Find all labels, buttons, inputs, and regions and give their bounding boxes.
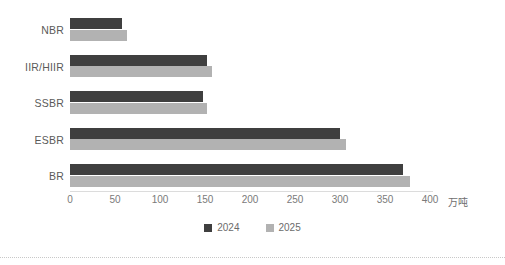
- chart-row: ESBR: [0, 122, 505, 159]
- bar-group: [70, 164, 430, 188]
- category-label: ESBR: [0, 134, 64, 146]
- legend-swatch-icon: [266, 224, 274, 232]
- chart-legend: 2024 2025: [0, 222, 505, 233]
- chart-row: SSBR: [0, 85, 505, 122]
- bar-2024[interactable]: [70, 55, 207, 66]
- bar-2025[interactable]: [70, 66, 212, 77]
- bar-2025[interactable]: [70, 176, 410, 187]
- bar-group: [70, 91, 430, 115]
- bar-group: [70, 128, 430, 152]
- x-tick: 300: [332, 194, 349, 205]
- bottom-divider: [0, 257, 505, 259]
- x-tick: 250: [287, 194, 304, 205]
- plot-area: NBR IIR/HIIR SSBR: [0, 0, 505, 196]
- bar-2024[interactable]: [70, 164, 403, 175]
- bar-2024[interactable]: [70, 91, 203, 102]
- bar-2024[interactable]: [70, 18, 122, 29]
- chart-row: NBR: [0, 12, 505, 49]
- category-label: NBR: [0, 24, 64, 36]
- x-tick: 350: [377, 194, 394, 205]
- bar-2024[interactable]: [70, 128, 340, 139]
- bar-2025[interactable]: [70, 103, 207, 114]
- x-tick: 0: [67, 194, 73, 205]
- x-axis-unit-label: 万吨: [448, 194, 468, 209]
- x-tick: 200: [242, 194, 259, 205]
- bar-2025[interactable]: [70, 139, 346, 150]
- legend-item-2025[interactable]: 2025: [266, 222, 301, 233]
- category-label: BR: [0, 170, 64, 182]
- legend-item-2024[interactable]: 2024: [204, 222, 239, 233]
- category-label: SSBR: [0, 97, 64, 109]
- chart-row: BR: [0, 158, 505, 195]
- bar-rows: NBR IIR/HIIR SSBR: [0, 12, 505, 195]
- bar-group: [70, 55, 430, 79]
- legend-label: 2024: [217, 222, 239, 233]
- x-tick: 100: [152, 194, 169, 205]
- x-axis-line: [70, 191, 433, 192]
- bar-group: [70, 18, 430, 42]
- x-tick: 150: [197, 194, 214, 205]
- legend-swatch-icon: [204, 224, 212, 232]
- legend-label: 2025: [279, 222, 301, 233]
- category-label: IIR/HIIR: [0, 61, 64, 73]
- x-axis-ticks: 0 50 100 150 200 250 300 350 400: [0, 194, 505, 210]
- x-tick: 400: [422, 194, 439, 205]
- bar-chart: NBR IIR/HIIR SSBR: [0, 0, 505, 265]
- x-tick: 50: [109, 194, 120, 205]
- chart-row: IIR/HIIR: [0, 49, 505, 86]
- bar-2025[interactable]: [70, 30, 127, 41]
